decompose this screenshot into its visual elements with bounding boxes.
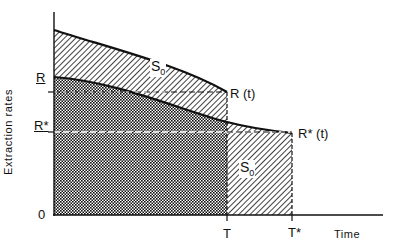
R-star-t-curve-label: R* (t) xyxy=(298,127,328,140)
R-tick-label: R xyxy=(36,71,45,84)
right-S0-main: S xyxy=(240,159,249,175)
upper-S0-main: S xyxy=(151,58,160,74)
T-tick-label: T xyxy=(223,227,231,240)
x-axis-label: Time xyxy=(334,229,360,240)
R-t-curve-label: R (t) xyxy=(230,87,255,100)
T-star-tick-label: T* xyxy=(288,226,301,239)
right-S0-label: S0 xyxy=(239,160,255,178)
right-hatched-region xyxy=(227,122,292,215)
R-star-tick-label: R* xyxy=(34,119,48,132)
upper-S0-label: S0 xyxy=(150,59,166,77)
right-S0-sub: 0 xyxy=(249,168,254,178)
upper-S0-sub: 0 xyxy=(160,67,165,77)
extraction-rate-diagram xyxy=(0,0,398,252)
y-axis-label: Extraction rates xyxy=(2,89,14,175)
zero-tick-label: 0 xyxy=(38,208,45,221)
